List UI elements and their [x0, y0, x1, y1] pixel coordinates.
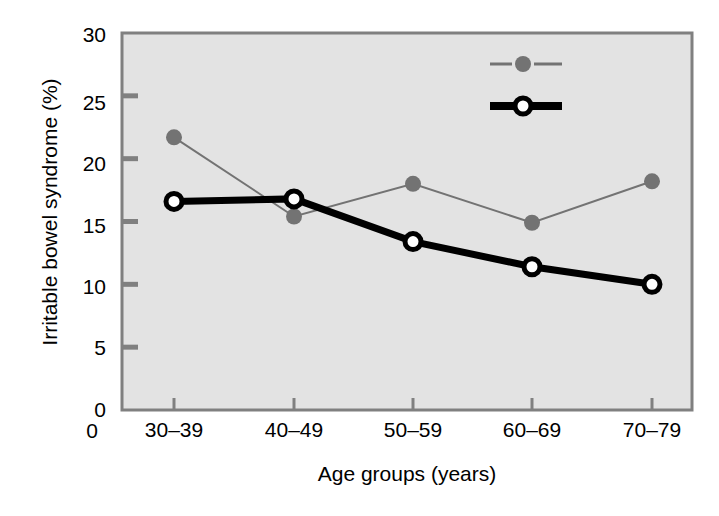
data-point-females-1: [286, 208, 302, 224]
data-point-females-4: [644, 173, 660, 189]
plot-background: [122, 33, 692, 410]
data-point-females-3: [524, 215, 540, 231]
data-point-males-4: [644, 276, 660, 292]
data-point-females-2: [405, 176, 421, 192]
data-point-males-3: [524, 259, 540, 275]
legend-swatch-males-marker: [515, 98, 531, 114]
data-point-females-0: [166, 129, 182, 145]
data-point-males-1: [286, 191, 302, 207]
data-point-males-0: [166, 193, 182, 209]
plot-canvas: [0, 0, 719, 516]
chart-figure: Irritable bowel syndrome (%) 0 5 10 15 2…: [0, 0, 719, 516]
legend-swatch-females-marker: [515, 56, 531, 72]
data-point-males-2: [405, 234, 421, 250]
